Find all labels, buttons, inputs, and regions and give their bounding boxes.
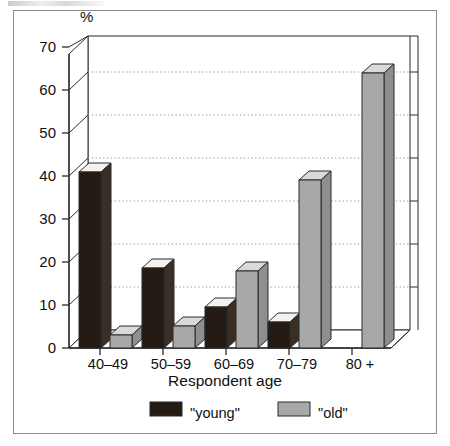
x-axis-title: Respondent age [0, 372, 450, 390]
bar-old-60-69[interactable] [236, 262, 268, 348]
y-tick-label-20: 20 [28, 253, 56, 270]
bar-old-80-plus[interactable] [362, 64, 394, 348]
legend-swatch-young [150, 402, 182, 416]
bar-old-50-59[interactable] [173, 317, 205, 348]
y-tick-label-70: 70 [28, 38, 56, 55]
y-tick-label-0: 0 [28, 339, 56, 356]
bar-young-70-79[interactable] [268, 313, 300, 348]
legend-label-old: "old" [318, 405, 348, 421]
bar-group-80-plus [362, 64, 394, 348]
bar-old-70-79[interactable] [299, 171, 331, 348]
legend-swatch-old [278, 402, 310, 416]
y-axis-unit-label: % [80, 8, 93, 25]
y-tick-label-60: 60 [28, 81, 56, 98]
bar-young-50-59[interactable] [142, 259, 174, 348]
y-tick-label-40: 40 [28, 167, 56, 184]
legend-label-young: "young" [190, 405, 240, 421]
y-tick-label-10: 10 [28, 296, 56, 313]
x-tick-label-80-plus: 80 + [315, 356, 405, 372]
right-depth-ticks [410, 36, 418, 330]
bar-young-60-69[interactable] [205, 298, 237, 348]
y-tick-label-50: 50 [28, 124, 56, 141]
bar-young-40-49[interactable] [79, 163, 111, 348]
y-tick-label-30: 30 [28, 210, 56, 227]
x-axis [69, 348, 391, 355]
